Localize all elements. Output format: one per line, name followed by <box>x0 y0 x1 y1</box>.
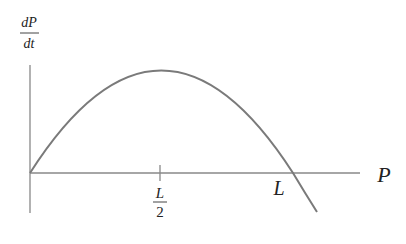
y-axis-label-numerator: dP <box>21 15 37 30</box>
logistic-growth-diagram: dP dt P L 2 L <box>0 0 406 244</box>
x-axis-label: P <box>376 162 390 187</box>
tick-label-half-L-numerator: L <box>155 185 164 201</box>
tick-label-half-L-denominator: 2 <box>156 204 164 220</box>
y-axis-label-denominator: dt <box>24 36 36 51</box>
tick-label-L: L <box>272 177 284 199</box>
